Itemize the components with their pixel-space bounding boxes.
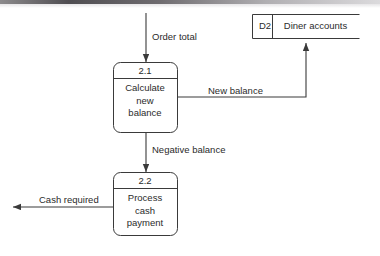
process-2-1-id: 2.1 (113, 65, 177, 77)
process-2-1-name: Calculate new balance (113, 82, 177, 120)
process-2-2-id: 2.2 (113, 175, 177, 187)
flow-label-new-balance: New balance (208, 85, 263, 97)
process-2-2-name-line-3: payment (113, 217, 177, 230)
flow-label-negative-balance: Negative balance (152, 144, 225, 156)
process-2-1-name-line-1: Calculate (113, 82, 177, 95)
process-2-1-name-line-3: balance (113, 107, 177, 120)
dfd-canvas: 2.1 Calculate new balance 2.2 Process ca… (0, 0, 380, 256)
process-2-2-name: Process cash payment (113, 192, 177, 230)
flow-label-order-total: Order total (152, 31, 197, 43)
flow-label-cash-required: Cash required (39, 194, 99, 206)
process-2-1-name-line-2: new (113, 95, 177, 108)
process-2-2-name-line-1: Process (113, 192, 177, 205)
data-store-d2-name: Diner accounts (272, 20, 359, 32)
process-2-2-name-line-2: cash (113, 205, 177, 218)
